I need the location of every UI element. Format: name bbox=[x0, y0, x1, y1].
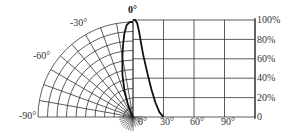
intensity-curve-rect bbox=[133, 20, 164, 117]
x-tick-60: 60° bbox=[190, 116, 204, 127]
x-tick-90: 90° bbox=[221, 116, 235, 127]
y-tick-80: 80% bbox=[257, 34, 275, 45]
top-angle-label: 0° bbox=[128, 4, 137, 15]
angle-label-minus60: -60° bbox=[33, 50, 50, 61]
x-tick-30: 30° bbox=[160, 116, 174, 127]
y-tick-60: 60% bbox=[257, 53, 275, 64]
y-tick-40: 40% bbox=[257, 72, 275, 83]
rectangular-grid bbox=[133, 18, 255, 119]
angle-label-minus90: -90° bbox=[19, 110, 36, 121]
y-tick-0: 0 bbox=[257, 111, 262, 122]
angle-label-minus30: -30° bbox=[70, 17, 87, 28]
polar-grid bbox=[38, 22, 143, 131]
origin-angle-label: 0° bbox=[138, 116, 147, 127]
y-tick-100: 100% bbox=[257, 14, 280, 25]
radiation-pattern-chart: 0° -30° -60° -90° 0° 30° 60° 90° 100% 80… bbox=[0, 0, 298, 140]
y-tick-20: 20% bbox=[257, 92, 275, 103]
